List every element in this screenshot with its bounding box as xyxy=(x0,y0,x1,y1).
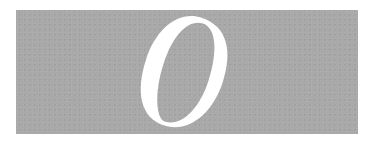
drop-cap-letter-glyph xyxy=(16,10,358,134)
drop-cap-box: O xyxy=(16,10,358,134)
